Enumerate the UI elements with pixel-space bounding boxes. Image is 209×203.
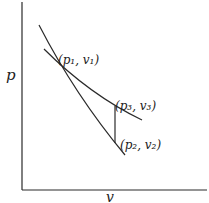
point-label-p3v3: (p₃, v₃)	[115, 99, 156, 113]
pv-diagram: p v (p₁, v₁) (p₃, v₃) (p₂, v₂)	[0, 0, 209, 203]
steep-curve	[39, 25, 125, 155]
y-axis-label: p	[6, 66, 16, 84]
x-axis-label: v	[106, 189, 114, 203]
point-label-p1v1: (p₁, v₁)	[58, 53, 99, 67]
point-label-p2v2: (p₂, v₂)	[120, 138, 161, 152]
